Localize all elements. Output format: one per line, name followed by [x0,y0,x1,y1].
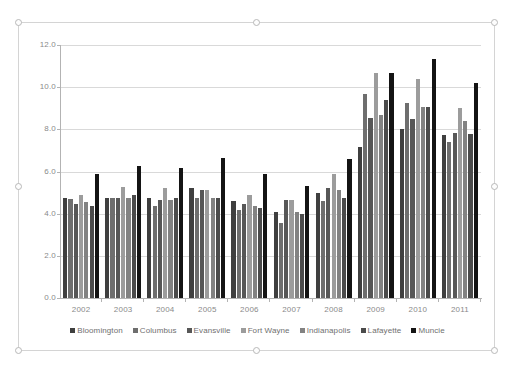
bar-slot [132,45,136,298]
bar-slot [442,45,446,298]
bar-muncie-2009[interactable] [389,73,393,298]
bar-bloomington-2009[interactable] [358,147,362,298]
bar-lafayette-2007[interactable] [300,214,304,298]
bar-indianapolis-2009[interactable] [379,115,383,298]
bar-bloomington-2006[interactable] [231,201,235,298]
bar-columbus-2005[interactable] [195,198,199,298]
y-tick-label: 6.0 [22,168,56,176]
bar-fort-wayne-2003[interactable] [121,187,125,298]
bar-fort-wayne-2006[interactable] [247,195,251,298]
bar-fort-wayne-2011[interactable] [458,108,462,298]
bar-lafayette-2004[interactable] [174,198,178,298]
x-tick-cell-2004 [144,298,186,304]
bar-columbus-2011[interactable] [447,142,451,298]
resize-handle-middle-left[interactable] [15,183,22,190]
bar-bloomington-2011[interactable] [442,135,446,298]
x-tick-label-2003: 2003 [102,305,144,319]
bar-indianapolis-2006[interactable] [253,206,257,298]
bar-evansville-2005[interactable] [200,190,204,298]
resize-handle-bottom-right[interactable] [491,347,498,354]
bar-fort-wayne-2004[interactable] [163,188,167,298]
bar-muncie-2010[interactable] [432,59,436,298]
resize-handle-middle-right[interactable] [491,183,498,190]
bar-indianapolis-2003[interactable] [126,198,130,298]
resize-handle-top-right[interactable] [491,19,498,26]
chart-object[interactable]: 0.02.04.06.08.010.012.0 2002200320042005… [18,22,495,351]
bar-evansville-2010[interactable] [410,119,414,298]
legend-label: Columbus [140,326,177,335]
legend-item-columbus[interactable]: Columbus [133,326,177,335]
bar-evansville-2009[interactable] [368,118,372,298]
y-tick-label: 0.0 [22,294,56,302]
bar-evansville-2004[interactable] [158,200,162,298]
bar-slot [126,45,130,298]
bar-fort-wayne-2008[interactable] [332,174,336,298]
bar-evansville-2002[interactable] [74,204,78,298]
bar-lafayette-2008[interactable] [342,198,346,298]
bar-muncie-2003[interactable] [137,166,141,298]
bar-muncie-2006[interactable] [263,174,267,298]
bar-bloomington-2010[interactable] [400,129,404,298]
bar-lafayette-2011[interactable] [468,134,472,298]
bar-evansville-2007[interactable] [284,200,288,298]
bar-columbus-2002[interactable] [68,199,72,299]
bar-group-2005 [186,45,228,298]
bar-muncie-2002[interactable] [95,174,99,298]
bar-indianapolis-2011[interactable] [463,121,467,298]
bar-fort-wayne-2002[interactable] [79,195,83,298]
bar-muncie-2005[interactable] [221,158,225,298]
bar-fort-wayne-2007[interactable] [289,200,293,298]
bar-lafayette-2002[interactable] [90,206,94,298]
x-tick-cell-2002 [60,298,102,304]
bar-muncie-2008[interactable] [347,159,351,298]
bar-bloomington-2007[interactable] [274,212,278,298]
legend-item-fort-wayne[interactable]: Fort Wayne [241,326,290,335]
bar-columbus-2010[interactable] [405,103,409,298]
bar-lafayette-2005[interactable] [216,198,220,298]
resize-handle-bottom-left[interactable] [15,347,22,354]
bar-indianapolis-2004[interactable] [168,200,172,298]
resize-handle-top-center[interactable] [253,19,260,26]
bar-fort-wayne-2005[interactable] [205,190,209,298]
bar-muncie-2007[interactable] [305,186,309,298]
chart-legend[interactable]: BloomingtonColumbusEvansvilleFort WayneI… [19,326,496,335]
bar-columbus-2006[interactable] [237,210,241,298]
bar-columbus-2008[interactable] [321,201,325,298]
bar-lafayette-2006[interactable] [258,208,262,298]
bar-muncie-2011[interactable] [474,83,478,298]
legend-item-indianapolis[interactable]: Indianapolis [300,326,351,335]
bar-lafayette-2003[interactable] [132,195,136,298]
bar-bloomington-2003[interactable] [105,198,109,298]
bar-slot [163,45,167,298]
bar-columbus-2009[interactable] [363,94,367,299]
bar-columbus-2007[interactable] [279,223,283,298]
bar-columbus-2004[interactable] [153,206,157,298]
bar-columbus-2003[interactable] [110,198,114,298]
bar-indianapolis-2002[interactable] [84,202,88,298]
bar-indianapolis-2005[interactable] [211,198,215,298]
bar-indianapolis-2008[interactable] [337,190,341,298]
bar-evansville-2003[interactable] [116,198,120,298]
legend-item-lafayette[interactable]: Lafayette [361,326,402,335]
bar-indianapolis-2007[interactable] [295,212,299,298]
bar-fort-wayne-2010[interactable] [416,79,420,298]
bar-fort-wayne-2009[interactable] [374,73,378,298]
bar-indianapolis-2010[interactable] [421,107,425,298]
resize-handle-top-left[interactable] [15,19,22,26]
bar-slot [295,45,299,298]
resize-handle-bottom-center[interactable] [253,347,260,354]
legend-item-evansville[interactable]: Evansville [187,326,231,335]
bar-evansville-2006[interactable] [242,204,246,298]
x-tick-label-2002: 2002 [60,305,102,319]
bar-bloomington-2002[interactable] [63,198,67,298]
legend-item-muncie[interactable]: Muncie [411,326,444,335]
legend-item-bloomington[interactable]: Bloomington [70,326,123,335]
bar-evansville-2008[interactable] [326,188,330,298]
bar-evansville-2011[interactable] [453,133,457,298]
bar-lafayette-2009[interactable] [384,100,388,298]
bar-bloomington-2004[interactable] [147,198,151,298]
bar-bloomington-2008[interactable] [316,193,320,298]
bar-muncie-2004[interactable] [179,168,183,298]
bar-bloomington-2005[interactable] [189,188,193,298]
bar-lafayette-2010[interactable] [426,107,430,298]
